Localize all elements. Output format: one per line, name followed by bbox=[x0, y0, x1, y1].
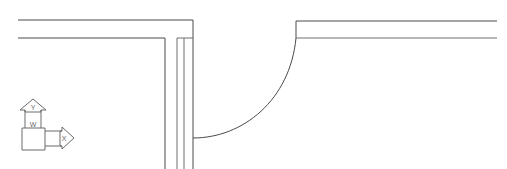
ucs-y-axis-label: Y bbox=[31, 104, 36, 111]
ucs-x-axis-shaft bbox=[45, 131, 62, 146]
ucs-world-marker-label: W bbox=[30, 121, 37, 128]
top-left-outer-wall-line bbox=[18, 20, 193, 169]
ucs-axis-icon[interactable]: Y W X bbox=[20, 99, 74, 150]
ucs-x-axis-label: X bbox=[62, 135, 67, 142]
cad-vector-drawing: Y W X bbox=[0, 0, 507, 169]
top-left-inner-wall-line bbox=[18, 38, 165, 169]
ucs-origin-box bbox=[22, 128, 45, 150]
cad-drawing-canvas[interactable]: Y W X bbox=[0, 0, 507, 169]
fillet-curve bbox=[193, 38, 296, 138]
